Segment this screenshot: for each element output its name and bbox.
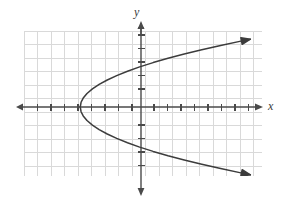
parabola-upper-branch-arrowhead [241,38,250,45]
coordinate-plane-svg [0,0,286,203]
grid-lines [24,31,262,180]
parabola-lower-branch [80,107,250,175]
x-axis-left-arrowhead [16,104,23,111]
parabola-upper-branch [80,39,250,107]
parabola-graph-figure: y x [0,0,286,203]
top-mask [0,0,286,27]
x-axis-label: x [268,100,273,112]
y-axis-label: y [134,6,139,18]
axes [19,24,259,192]
x-axis-right-arrowhead [255,103,263,110]
parabola-lower-branch-arrowhead [241,170,250,177]
